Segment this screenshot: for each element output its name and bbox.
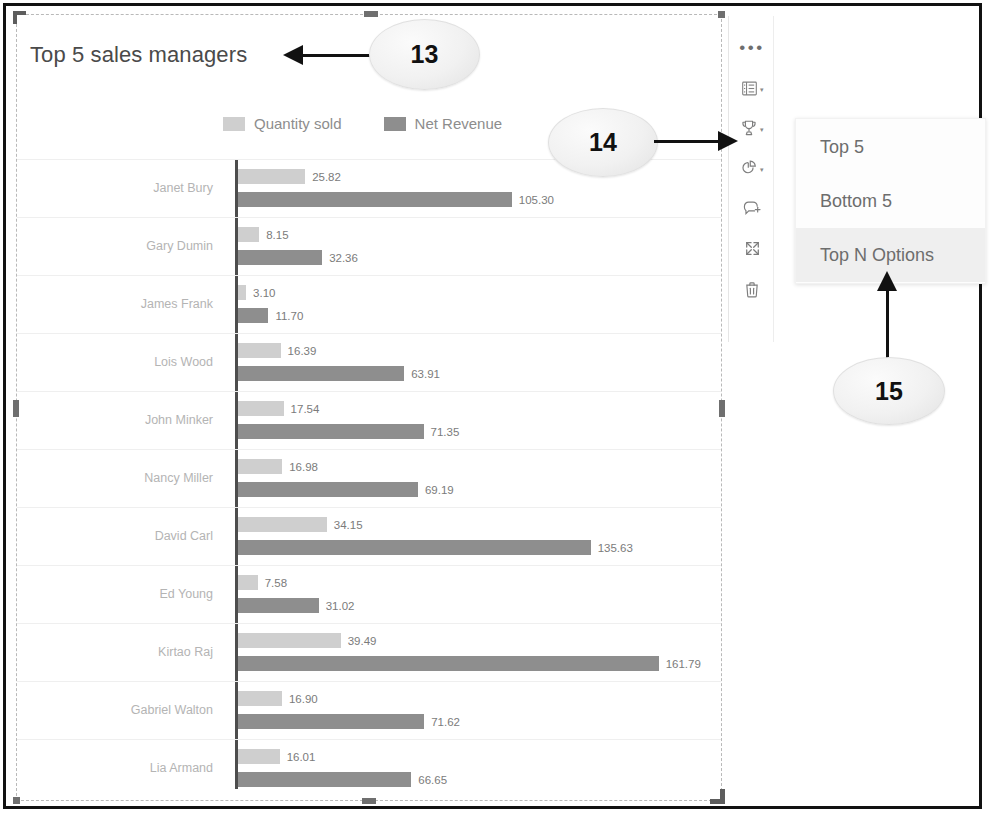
category-axis-label: John Minker: [145, 413, 213, 427]
chart-bar[interactable]: [238, 285, 246, 300]
trash-icon[interactable]: [729, 270, 775, 310]
chart-bar-row[interactable]: 16.90: [238, 691, 693, 706]
chart-bar[interactable]: [238, 598, 319, 613]
callout-label: 14: [589, 128, 617, 157]
chart-category-group: Nancy Miller16.9869.19: [17, 449, 721, 508]
callout-14-arrow-line: [654, 140, 722, 143]
chart-bar-value-label: 105.30: [512, 194, 554, 206]
chart-bar-value-label: 39.49: [341, 635, 377, 647]
callout-15-arrow-head: [877, 271, 897, 291]
chart-bar[interactable]: [238, 250, 322, 265]
chart-bar-row[interactable]: 11.70: [238, 308, 693, 323]
chart-bar-value-label: 71.35: [424, 426, 460, 438]
chart-bar-row[interactable]: 161.79: [238, 656, 693, 671]
chart-bar-value-label: 63.91: [404, 368, 440, 380]
expand-icon[interactable]: [729, 228, 775, 268]
chart-bar[interactable]: [238, 540, 591, 555]
chevron-down-icon[interactable]: ▾: [760, 166, 764, 174]
chart-category-group: James Frank3.1011.70: [17, 275, 721, 334]
chart-bar[interactable]: [238, 227, 259, 242]
chart-bar[interactable]: [238, 575, 258, 590]
chart-category-group: Ed Young7.5831.02: [17, 565, 721, 624]
chart-category-group: Gabriel Walton16.9071.62: [17, 681, 721, 740]
chart-category-group: Lia Armand16.0166.65: [17, 739, 721, 798]
category-axis-label: Janet Bury: [153, 181, 213, 195]
chart-bar[interactable]: [238, 308, 268, 323]
chart-bar-value-label: 135.63: [591, 542, 633, 554]
chart-bar[interactable]: [238, 749, 280, 764]
chart-bar[interactable]: [238, 633, 341, 648]
chart-bar[interactable]: [238, 656, 659, 671]
callout-badge-15: 15: [833, 357, 945, 425]
chart-bar-row[interactable]: 69.19: [238, 482, 693, 497]
chart-bar[interactable]: [238, 714, 424, 729]
chart-category-group: John Minker17.5471.35: [17, 391, 721, 450]
chart-bar[interactable]: [238, 192, 512, 207]
widget-toolbar[interactable]: ••• ▾ ▾ ▾: [728, 16, 774, 342]
chart-legend: Quantity sold Net Revenue: [223, 115, 502, 132]
chart-bar[interactable]: [238, 424, 424, 439]
chart-bar[interactable]: [238, 482, 418, 497]
legend-swatch-net-revenue: [384, 117, 406, 131]
page-title: Top 5 sales managers: [30, 42, 247, 68]
legend-item-quantity-sold[interactable]: Quantity sold: [223, 115, 342, 132]
chart-bar-row[interactable]: 66.65: [238, 772, 693, 787]
chart-bar[interactable]: [238, 691, 282, 706]
chart-bar[interactable]: [238, 517, 327, 532]
more-options-icon[interactable]: •••: [729, 28, 775, 68]
chart-bar[interactable]: [238, 343, 281, 358]
legend-swatch-quantity-sold: [223, 117, 245, 131]
chart-bar[interactable]: [238, 459, 282, 474]
callout-label: 13: [411, 40, 439, 69]
legend-item-net-revenue[interactable]: Net Revenue: [384, 115, 503, 132]
pie-chart-icon[interactable]: ▾: [729, 148, 775, 188]
top-n-dropdown-menu[interactable]: Top 5 Bottom 5 Top N Options: [795, 118, 986, 284]
chart-bar-value-label: 71.62: [424, 716, 460, 728]
chart-bar-value-label: 7.58: [258, 577, 287, 589]
list-view-icon[interactable]: ▾: [729, 68, 775, 108]
chart-bar-value-label: 16.39: [281, 345, 317, 357]
chart-bar-row[interactable]: 8.15: [238, 227, 693, 242]
chart-bar[interactable]: [238, 366, 404, 381]
callout-15-arrow-line: [886, 288, 889, 362]
chart-bar-row[interactable]: 63.91: [238, 366, 693, 381]
chart-bar-row[interactable]: 16.39: [238, 343, 693, 358]
chart-bar-row[interactable]: 31.02: [238, 598, 693, 613]
category-axis-label: Gabriel Walton: [131, 703, 213, 717]
chart-bar-value-label: 17.54: [284, 403, 320, 415]
chart-bar-row[interactable]: 135.63: [238, 540, 693, 555]
category-axis-label: Nancy Miller: [144, 471, 213, 485]
chart-bar-row[interactable]: 105.30: [238, 192, 693, 207]
chart-bar-row[interactable]: 16.01: [238, 749, 693, 764]
callout-13-arrow-head: [283, 45, 303, 65]
menu-item-top-5[interactable]: Top 5: [796, 120, 985, 174]
chart-category-group: Kirtao Raj39.49161.79: [17, 623, 721, 682]
comment-add-icon[interactable]: [729, 188, 775, 228]
chart-bar[interactable]: [238, 772, 411, 787]
chevron-down-icon[interactable]: ▾: [760, 86, 764, 94]
category-axis-label: Lois Wood: [154, 355, 213, 369]
menu-item-bottom-5[interactable]: Bottom 5: [796, 174, 985, 228]
menu-item-label: Bottom 5: [820, 191, 892, 212]
bar-chart-plot[interactable]: Janet Bury25.82105.30Gary Dumin8.1532.36…: [17, 155, 721, 793]
chart-bar-row[interactable]: 34.15: [238, 517, 693, 532]
chart-bar-value-label: 25.82: [305, 171, 341, 183]
chart-category-group: Lois Wood16.3963.91: [17, 333, 721, 392]
chart-bar-row[interactable]: 17.54: [238, 401, 693, 416]
chart-category-group: Gary Dumin8.1532.36: [17, 217, 721, 276]
chart-bar-row[interactable]: 3.10: [238, 285, 693, 300]
chart-bar[interactable]: [238, 401, 284, 416]
chart-bar-row[interactable]: 32.36: [238, 250, 693, 265]
category-axis-label: James Frank: [141, 297, 213, 311]
chart-bar-row[interactable]: 71.35: [238, 424, 693, 439]
chart-bar-row[interactable]: 7.58: [238, 575, 693, 590]
chevron-down-icon[interactable]: ▾: [760, 126, 764, 134]
chart-bar-row[interactable]: 16.98: [238, 459, 693, 474]
category-axis-label: David Carl: [155, 529, 213, 543]
chart-bar[interactable]: [238, 169, 305, 184]
callout-badge-13: 13: [369, 19, 480, 90]
chart-category-group: David Carl34.15135.63: [17, 507, 721, 566]
chart-bar-value-label: 11.70: [268, 310, 303, 322]
chart-bar-row[interactable]: 71.62: [238, 714, 693, 729]
chart-bar-row[interactable]: 39.49: [238, 633, 693, 648]
